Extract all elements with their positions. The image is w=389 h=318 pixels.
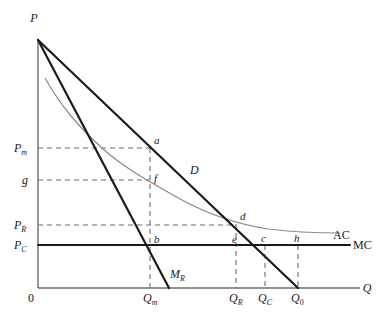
point-label-c: c	[261, 232, 266, 244]
marginal-cost-curve-label: MC	[353, 238, 372, 252]
demand-curve-label: D	[189, 163, 199, 177]
x-tick-qm: Qm	[143, 291, 158, 307]
x-tick-qc: QC	[258, 291, 273, 307]
x-tick-labels: Qm QR QC Q0	[143, 291, 304, 307]
x-tick-qr: QR	[229, 291, 243, 307]
marginal-revenue-curve	[38, 40, 169, 288]
point-label-h: h	[294, 232, 300, 244]
origin-label: 0	[28, 291, 34, 305]
average-cost-curve-label: AC	[333, 228, 350, 242]
point-label-e: e	[232, 233, 237, 245]
economics-diagram: P Q 0 Pm g PR PC Qm QR QC Q0 D MR AC MC …	[0, 0, 389, 318]
average-cost-curve	[45, 78, 340, 233]
point-label-a: a	[154, 134, 160, 146]
y-tick-pm: Pm	[13, 141, 27, 157]
guide-lines	[38, 148, 298, 288]
point-label-b: b	[154, 233, 160, 245]
marginal-revenue-curve-label: MR	[169, 267, 185, 283]
y-axis-label: P	[29, 11, 38, 25]
y-tick-pc: PC	[13, 238, 27, 254]
monopoly-regulation-chart: P Q 0 Pm g PR PC Qm QR QC Q0 D MR AC MC …	[0, 0, 389, 318]
x-axis-label: Q	[363, 281, 372, 295]
y-tick-pr: PR	[13, 218, 26, 234]
demand-curve	[38, 40, 298, 288]
y-tick-labels: Pm g PR PC	[13, 141, 28, 254]
y-tick-g: g	[22, 173, 28, 187]
point-label-d: d	[240, 210, 246, 222]
point-label-f: f	[154, 172, 159, 184]
x-tick-q0: Q0	[291, 291, 304, 307]
point-labels: a f b d e c h	[154, 134, 300, 245]
